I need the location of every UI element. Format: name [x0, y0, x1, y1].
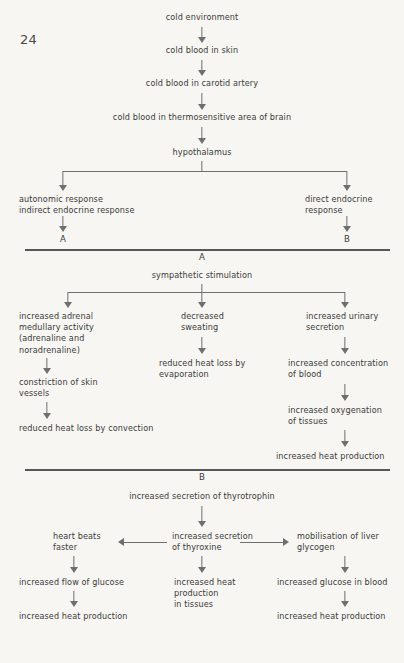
node-cold-blood-skin: cold blood in skin: [166, 45, 238, 56]
connector-line: [240, 542, 283, 543]
node-sympathetic-stimulation: sympathetic stimulation: [152, 270, 252, 281]
arrow-down-icon: [341, 348, 349, 354]
arrow-down-icon: [64, 302, 72, 308]
node-increased-heat-production-right: increased heat production: [277, 611, 386, 622]
arrow-right-icon: [283, 538, 289, 546]
connector-bracket: [63, 171, 347, 172]
node-increased-heat-production-a: increased heat production: [276, 451, 385, 462]
node-increased-glucose-blood: increased glucose in blood: [277, 577, 388, 588]
arrow-down-icon: [70, 567, 78, 573]
node-increased-urinary-secretion: increased urinary secretion: [306, 311, 378, 333]
node-cold-blood-carotid: cold blood in carotid artery: [146, 78, 258, 89]
node-cold-environment: cold environment: [166, 12, 239, 23]
arrow-down-icon: [198, 138, 206, 144]
node-increased-flow-glucose: increased flow of glucose: [19, 577, 124, 588]
node-direct-endocrine-response: direct endocrine response: [305, 194, 373, 216]
arrow-down-icon: [343, 226, 351, 232]
arrow-down-icon: [198, 348, 206, 354]
node-hypothalamus: hypothalamus: [173, 147, 232, 158]
section-label-a: A: [199, 252, 205, 262]
node-increased-concentration-blood: increased concentration of blood: [288, 358, 388, 380]
marker-a-left: A: [60, 234, 66, 244]
node-cold-blood-brain: cold blood in thermosensitive area of br…: [113, 112, 291, 123]
arrow-down-icon: [341, 567, 349, 573]
connector-bracket: [68, 292, 345, 293]
arrow-down-icon: [198, 70, 206, 76]
node-increased-heat-production-tissues: increased heat production in tissues: [174, 577, 235, 611]
node-mobilisation-liver-glycogen: mobilisation of liver glycogen: [297, 531, 379, 553]
arrow-down-icon: [343, 185, 351, 191]
node-increased-heat-production-left: increased heat production: [19, 611, 128, 622]
node-autonomic-response: autonomic response indirect endocrine re…: [19, 194, 134, 216]
node-decreased-sweating: decreased sweating: [181, 311, 224, 333]
section-label-b: B: [199, 472, 205, 482]
arrow-down-icon: [198, 302, 206, 308]
arrow-down-icon: [341, 601, 349, 607]
section-divider-b: [25, 469, 390, 471]
arrow-down-icon: [198, 521, 206, 527]
arrow-down-icon: [341, 395, 349, 401]
flowchart-page: 24 cold environment cold blood in skin c…: [0, 0, 404, 663]
node-heart-beats-faster: heart beats faster: [53, 531, 101, 553]
page-number: 24: [20, 32, 37, 47]
arrow-down-icon: [198, 104, 206, 110]
section-divider-a: [25, 249, 390, 251]
node-reduced-heat-loss-convection: reduced heat loss by convection: [19, 423, 153, 434]
arrow-down-icon: [341, 441, 349, 447]
node-increased-secretion-thyrotrophin: increased secretion of thyrotrophin: [129, 491, 275, 502]
marker-b-right: B: [344, 234, 350, 244]
arrow-down-icon: [70, 601, 78, 607]
arrow-down-icon: [43, 413, 51, 419]
arrow-down-icon: [43, 368, 51, 374]
node-increased-adrenal: increased adrenal medullary activity (ad…: [19, 311, 94, 356]
arrow-down-icon: [59, 185, 67, 191]
node-reduced-heat-loss-evaporation: reduced heat loss by evaporation: [159, 358, 246, 380]
arrow-down-icon: [198, 567, 206, 573]
node-increased-oxygenation-tissues: increased oxygenation of tissues: [288, 405, 382, 427]
arrow-down-icon: [341, 302, 349, 308]
arrow-left-icon: [118, 538, 124, 546]
connector-line: [124, 542, 167, 543]
arrow-down-icon: [198, 37, 206, 43]
node-constriction-skin-vessels: constriction of skin vessels: [19, 377, 98, 399]
arrow-down-icon: [59, 226, 67, 232]
